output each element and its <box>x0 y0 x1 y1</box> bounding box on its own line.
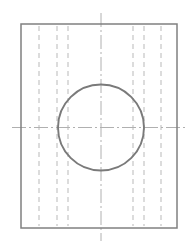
drawing-svg <box>0 0 194 246</box>
technical-drawing-canvas <box>0 0 194 246</box>
drawing-background <box>0 0 194 246</box>
